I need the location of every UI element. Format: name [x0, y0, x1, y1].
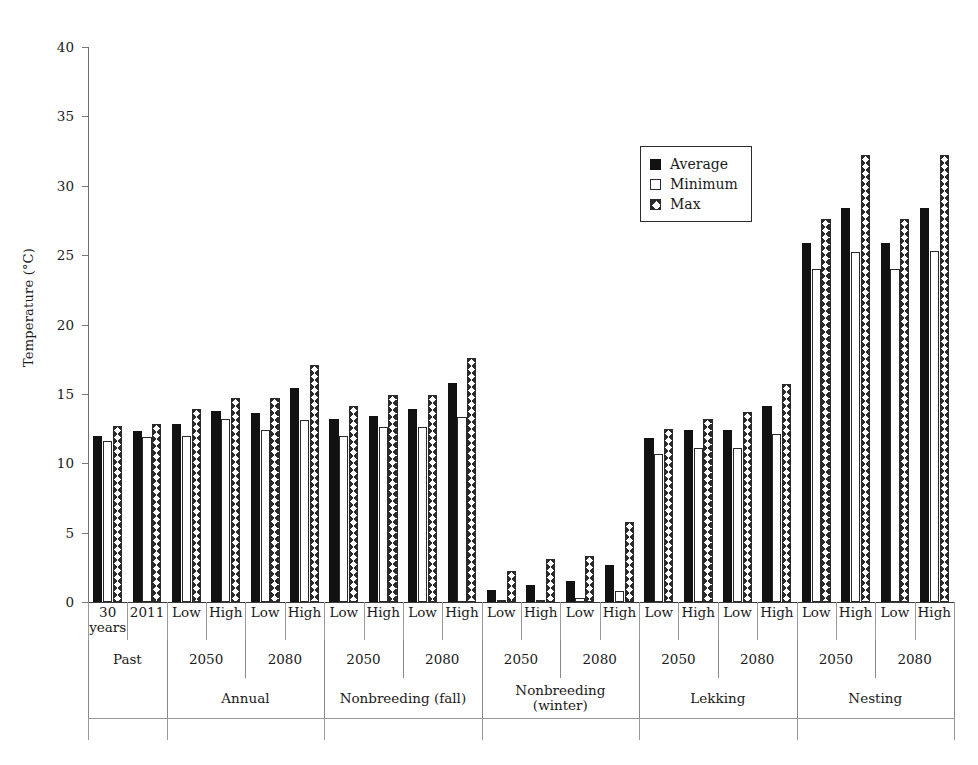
bar-minimum: [457, 417, 466, 602]
bar-minimum: [772, 434, 781, 602]
bar-minimum: [812, 269, 821, 602]
bar-max: [664, 429, 673, 602]
x-axis-label-subperiod: Low: [324, 602, 363, 640]
axis-separator: [521, 602, 522, 640]
legend-label-minimum: Minimum: [670, 176, 738, 192]
bar-group: [442, 47, 481, 602]
axis-separator: [88, 602, 89, 640]
x-axis-label-subperiod: Low: [560, 602, 599, 640]
x-axis-label-subperiod: Low: [167, 602, 206, 640]
x-axis-tier-year: Past205020802050208020502080205020802050…: [88, 640, 954, 678]
bar-minimum: [497, 600, 506, 602]
axis-separator: [875, 640, 876, 678]
y-axis-tick-10: 10: [18, 455, 74, 471]
bar-max: [270, 398, 279, 602]
bar-max: [546, 559, 555, 602]
bar-average: [566, 581, 575, 602]
legend-item-minimum: Minimum: [650, 174, 738, 194]
axis-bottom-tick: [324, 718, 325, 740]
x-axis-label-subperiod: High: [836, 602, 875, 640]
bar-average: [408, 409, 417, 602]
bar-max: [113, 426, 122, 602]
bar-group: [639, 47, 678, 602]
axis-separator: [600, 602, 601, 640]
axis-separator: [639, 602, 640, 640]
axis-separator: [639, 678, 640, 718]
bar-group: [403, 47, 442, 602]
bar-average: [133, 431, 142, 602]
x-axis-label-subperiod: High: [364, 602, 403, 640]
bar-group: [757, 47, 796, 602]
bar-average: [93, 436, 102, 603]
bar-group: [836, 47, 875, 602]
x-axis-tier-season: AnnualNonbreeding (fall)Nonbreeding(wint…: [88, 678, 954, 718]
legend-label-average: Average: [670, 156, 728, 172]
x-axis-label-subperiod: Low: [482, 602, 521, 640]
y-axis-tick-40: 40: [18, 39, 74, 55]
bar-minimum: [536, 600, 545, 602]
bar-average: [762, 406, 771, 602]
x-axis-label-year: 2080: [875, 640, 954, 678]
bar-group: [521, 47, 560, 602]
bar-minimum: [615, 591, 624, 602]
axis-separator: [324, 640, 325, 678]
bar-average: [526, 585, 535, 602]
bar-max: [625, 522, 634, 602]
bar-minimum: [851, 252, 860, 602]
axis-separator: [482, 640, 483, 678]
bar-max: [349, 406, 358, 602]
x-axis-bottom-rule: [88, 718, 954, 719]
x-axis-label-subperiod: Low: [875, 602, 914, 640]
x-axis-label-subperiod: Low: [639, 602, 678, 640]
axis-separator: [757, 602, 758, 640]
legend-swatch-max-icon: [650, 199, 661, 210]
bar-group: [678, 47, 717, 602]
axis-separator: [167, 640, 168, 678]
axis-separator: [797, 678, 798, 718]
legend-swatch-minimum-icon: [650, 179, 661, 190]
bar-max: [782, 384, 791, 602]
bar-group: [324, 47, 363, 602]
bar-minimum: [733, 448, 742, 602]
bar-group: [560, 47, 599, 602]
axis-separator: [836, 602, 837, 640]
bar-average: [920, 208, 929, 602]
axis-separator: [206, 602, 207, 640]
bar-group: [364, 47, 403, 602]
axis-separator: [88, 640, 89, 678]
axis-separator: [403, 640, 404, 678]
axis-separator: [127, 602, 128, 640]
bar-group: [167, 47, 206, 602]
axis-bottom-tick: [482, 718, 483, 740]
bar-minimum: [379, 427, 388, 602]
axis-separator: [560, 602, 561, 640]
bar-minimum: [142, 437, 151, 602]
bar-max: [467, 358, 476, 602]
bar-max: [388, 395, 397, 602]
y-axis-tick-20: 20: [18, 317, 74, 333]
axis-bottom-tick: [167, 718, 168, 740]
bar-average: [290, 388, 299, 602]
x-axis-label-subperiod: Low: [718, 602, 757, 640]
x-axis-label-subperiod: High: [285, 602, 324, 640]
x-axis-label-season: Nonbreeding (fall): [324, 678, 481, 718]
axis-separator: [954, 678, 955, 718]
x-axis-label-year: 2080: [560, 640, 639, 678]
bar-max: [821, 219, 830, 602]
axis-separator: [718, 602, 719, 640]
bar-group: [127, 47, 166, 602]
plot-area: [88, 47, 954, 602]
bar-max: [310, 365, 319, 602]
axis-separator: [167, 678, 168, 718]
x-axis-label-year: 2050: [482, 640, 561, 678]
axis-separator: [442, 602, 443, 640]
axis-separator: [364, 602, 365, 640]
y-axis-tick-35: 35: [18, 108, 74, 124]
axis-separator: [167, 602, 168, 640]
axis-separator: [245, 602, 246, 640]
bar-group: [600, 47, 639, 602]
axis-separator: [797, 640, 798, 678]
x-axis-label-subperiod: High: [600, 602, 639, 640]
bar-minimum: [221, 419, 230, 602]
axis-bottom-tick: [797, 718, 798, 740]
